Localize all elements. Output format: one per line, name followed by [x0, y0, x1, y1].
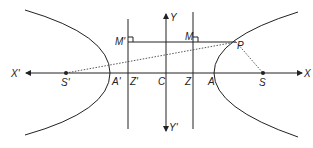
label-s-prime: S' — [61, 77, 71, 88]
focal-line-s-prime-p — [66, 42, 236, 73]
label-z: Z — [184, 76, 192, 87]
right-angle-m-prime — [128, 37, 133, 42]
label-y-neg: Y' — [169, 122, 179, 133]
focus-right-point — [261, 71, 265, 75]
label-p: P — [237, 40, 244, 51]
label-z-prime: Z' — [129, 76, 139, 87]
right-branch — [214, 12, 298, 137]
label-a: A — [207, 76, 215, 87]
label-a-prime: A' — [111, 76, 122, 87]
label-x: X — [303, 68, 311, 79]
label-center: C — [158, 76, 166, 87]
hyperbola-diagram: X' X Y Y' C S' S A' A Z' Z M' M P — [0, 0, 313, 148]
label-y: Y — [170, 12, 178, 23]
label-m-prime: M' — [115, 36, 126, 47]
label-m: M — [185, 31, 194, 42]
label-s: S — [259, 77, 266, 88]
label-x-neg: X' — [10, 68, 21, 79]
focus-left-point — [64, 71, 68, 75]
right-angle-m — [193, 37, 198, 42]
